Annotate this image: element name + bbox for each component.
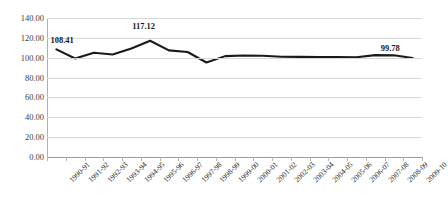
x-axis-tick-mark: [310, 157, 311, 161]
x-axis-tick-mark: [272, 157, 273, 161]
data-point-label: 117.12: [132, 21, 155, 31]
x-axis-tick-mark: [197, 157, 198, 161]
data-point-label: 108.41: [50, 35, 73, 45]
series-polyline: [56, 41, 412, 63]
x-axis-tick-mark: [47, 157, 48, 161]
gridline: [47, 97, 422, 98]
gridline: [47, 137, 422, 138]
gridline: [47, 18, 422, 19]
y-axis-tick-label: 20.00: [25, 132, 44, 142]
series-line-index: [47, 18, 422, 157]
x-axis-tick-mark: [366, 157, 367, 161]
y-axis-tick-label: 80.00: [25, 73, 44, 83]
x-axis-tick-mark: [141, 157, 142, 161]
gridline: [47, 38, 422, 39]
x-axis-tick-mark: [328, 157, 329, 161]
gridline: [47, 78, 422, 79]
y-axis-tick-label: 100.00: [21, 53, 44, 63]
gridline: [47, 58, 422, 59]
y-axis-tick-label: 40.00: [25, 112, 44, 122]
x-axis: 1990-911991-921992-931993-941994-951995-…: [0, 160, 440, 212]
y-axis-tick-label: 120.00: [21, 33, 44, 43]
x-axis-tick-mark: [160, 157, 161, 161]
x-axis-tick-mark: [66, 157, 67, 161]
x-axis-tick-mark: [216, 157, 217, 161]
x-axis-tick-mark: [235, 157, 236, 161]
x-axis-tick-mark: [403, 157, 404, 161]
x-axis-tick-mark: [122, 157, 123, 161]
x-axis-tick-mark: [178, 157, 179, 161]
x-axis-tick-mark: [385, 157, 386, 161]
x-axis-tick-mark: [347, 157, 348, 161]
x-axis-tick-mark: [85, 157, 86, 161]
x-axis-tick-mark: [422, 157, 423, 161]
plot-area: [47, 18, 422, 157]
gridline: [47, 117, 422, 118]
x-axis-tick-mark: [291, 157, 292, 161]
data-point-label: 99.78: [381, 43, 400, 53]
x-axis-tick-mark: [253, 157, 254, 161]
x-axis-tick-mark: [103, 157, 104, 161]
y-axis-tick-label: 140.00: [21, 13, 44, 23]
y-axis-tick-label: 60.00: [25, 92, 44, 102]
